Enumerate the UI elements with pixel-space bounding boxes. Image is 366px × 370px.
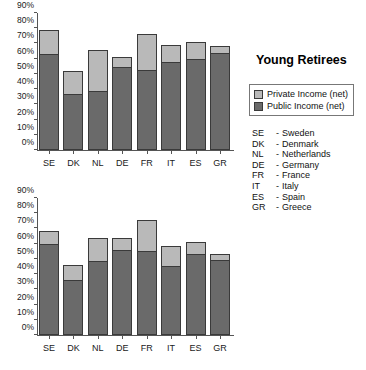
x-tick-mark: [49, 335, 50, 339]
bar-segment-private: [137, 34, 157, 70]
x-axis-label: FR: [137, 343, 157, 353]
x-axis-label: NL: [88, 158, 108, 168]
x-axis-label: ES: [186, 158, 206, 168]
bar-column: [88, 198, 108, 335]
bar-column: [63, 198, 83, 335]
bar-segment-public: [137, 251, 157, 335]
bar-segment-public: [186, 254, 206, 335]
country-key-name: Denmark: [282, 139, 319, 150]
y-tick-label: 50%: [17, 247, 34, 255]
country-key-code: FR: [252, 170, 273, 181]
y-tick-label: 40%: [17, 77, 34, 85]
bar-segment-public: [137, 70, 157, 150]
x-tick-mark: [98, 150, 99, 154]
bar-segment-public: [112, 250, 132, 335]
x-axis-label: SE: [39, 343, 59, 353]
bar-segment-private: [161, 45, 181, 63]
bar-segment-public: [88, 91, 108, 150]
x-tick-mark: [196, 335, 197, 339]
legend-item-private: Private Income (net): [254, 88, 348, 100]
y-tick-label: 90%: [17, 1, 34, 9]
x-axis-label: DK: [63, 158, 83, 168]
bar-column: [161, 13, 181, 150]
bar-group-old: [37, 198, 232, 335]
x-tick-mark: [171, 335, 172, 339]
y-tick-label: 70%: [17, 216, 34, 224]
y-tick-label: 10%: [17, 123, 34, 131]
country-key-row: FR-France: [252, 170, 331, 181]
x-tick: [137, 150, 157, 156]
bar-segment-private: [210, 46, 230, 54]
legend-swatch-public-icon: [254, 102, 263, 111]
y-tick-label: 50%: [17, 62, 34, 70]
y-tick-label: 60%: [17, 47, 34, 55]
bar-segment-private: [88, 50, 108, 91]
x-tick: [112, 150, 132, 156]
bar-column: [112, 13, 132, 150]
bar-segment-private: [137, 220, 157, 250]
x-axis-label: DK: [63, 343, 83, 353]
bar-segment-private: [112, 238, 132, 249]
bar-segment-private: [88, 238, 108, 262]
bar-segment-public: [186, 59, 206, 150]
country-key-dash: -: [273, 149, 282, 160]
country-key-row: DE-Germany: [252, 160, 331, 171]
x-tick: [161, 335, 181, 341]
bar-column: [39, 198, 59, 335]
bar-segment-public: [112, 67, 132, 150]
plot-area-young: 0%10%20%30%40%50%60%70%80%90%: [37, 13, 232, 150]
country-key-code: DE: [252, 160, 273, 171]
bar-segment-public: [39, 54, 59, 150]
bar-segment-private: [186, 242, 206, 254]
y-tick-label: 80%: [17, 16, 34, 24]
legend-label-private: Private Income (net): [267, 88, 348, 100]
x-tick: [88, 150, 108, 156]
x-axis-label: ES: [186, 343, 206, 353]
country-key-dash: -: [273, 139, 282, 150]
country-key-row: SE-Sweden: [252, 128, 331, 139]
x-axis-label: DE: [112, 158, 132, 168]
bar-group-young: [37, 13, 232, 150]
x-tick-mark: [196, 150, 197, 154]
legend-label-public: Public Income (net): [267, 100, 345, 112]
x-tick: [137, 335, 157, 341]
y-tick-label: 20%: [17, 108, 34, 116]
x-axis-label: GR: [210, 343, 230, 353]
x-tick-mark: [147, 150, 148, 154]
x-tick-mark: [49, 150, 50, 154]
bar-segment-public: [161, 62, 181, 150]
y-tick-label: 10%: [17, 308, 34, 316]
bar-column: [63, 13, 83, 150]
country-key-row: NL-Netherlands: [252, 149, 331, 160]
bar-segment-public: [39, 244, 59, 335]
bar-column: [112, 198, 132, 335]
x-tick: [161, 150, 181, 156]
legend-item-public: Public Income (net): [254, 100, 348, 112]
country-key-dash: -: [273, 170, 282, 181]
y-tick-label: 20%: [17, 293, 34, 301]
x-tick-mark: [73, 150, 74, 154]
bar-segment-private: [63, 71, 83, 94]
y-tick-label: 70%: [17, 31, 34, 39]
country-key-name: France: [282, 170, 310, 181]
bar-column: [88, 13, 108, 150]
y-tick-label: 80%: [17, 201, 34, 209]
chart-old-retirees: 0%10%20%30%40%50%60%70%80%90% SEDKNLDEFR…: [0, 185, 366, 370]
x-axis-label: DE: [112, 343, 132, 353]
x-tick-mark: [147, 335, 148, 339]
y-tick-label: 90%: [17, 186, 34, 194]
bar-column: [137, 13, 157, 150]
x-tick-mark: [220, 150, 221, 154]
x-tick-mark: [220, 335, 221, 339]
x-tick: [63, 335, 83, 341]
y-tick-label: 30%: [17, 92, 34, 100]
bar-segment-public: [63, 94, 83, 150]
legend-young: Private Income (net) Public Income (net): [249, 84, 354, 116]
bar-segment-public: [63, 280, 83, 335]
country-key-row: DK-Denmark: [252, 139, 331, 150]
bar-column: [186, 13, 206, 150]
bar-segment-public: [210, 260, 230, 335]
x-axis-label: NL: [88, 343, 108, 353]
x-axis-labels-old: SEDKNLDEFRITESGR: [37, 343, 232, 353]
country-key-name: Netherlands: [282, 149, 331, 160]
